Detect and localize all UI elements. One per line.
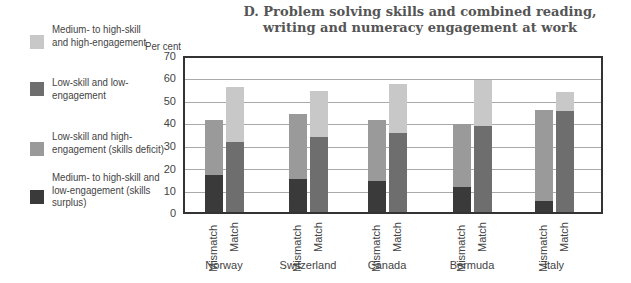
bar-segment xyxy=(556,111,574,212)
legend-swatch xyxy=(30,190,44,204)
bar-switzerland-match xyxy=(310,91,328,212)
legend-label: Low-skill and low-engagement xyxy=(52,76,162,101)
bar-switzerland-mismatch xyxy=(289,114,307,212)
chart-title: D. Problem solving skills and combined r… xyxy=(220,4,620,36)
chart-title-line1: D. Problem solving skills and combined r… xyxy=(220,4,620,20)
x-group-label-italy: Italy xyxy=(514,259,594,271)
y-tick: 60 xyxy=(150,72,176,84)
bar-segment xyxy=(453,187,471,212)
gridline xyxy=(185,79,601,80)
bar-italy-mismatch xyxy=(535,110,553,212)
bar-bermuda-match xyxy=(474,80,492,212)
bar-norway-mismatch xyxy=(205,120,223,212)
y-tick: 10 xyxy=(150,185,176,197)
bar-bermuda-mismatch xyxy=(453,124,471,212)
bar-segment xyxy=(389,84,407,132)
bar-canada-match xyxy=(389,84,407,212)
bar-segment xyxy=(310,137,328,212)
plot-area xyxy=(183,56,603,214)
bar-segment xyxy=(453,124,471,187)
x-label-match: Match xyxy=(558,222,570,252)
x-group-label-norway: Norway xyxy=(184,259,264,271)
bar-segment xyxy=(368,120,386,182)
x-group-label-switzerland: Switzerland xyxy=(268,259,348,271)
legend-label: Medium- to high-skill and high-engagemen… xyxy=(52,23,158,48)
bar-norway-match xyxy=(226,87,244,212)
x-label-match: Match xyxy=(391,222,403,252)
bar-segment xyxy=(535,110,553,201)
y-tick: 50 xyxy=(150,95,176,107)
chart-title-line2: writing and numeracy engagement at work xyxy=(220,20,620,36)
bar-segment xyxy=(368,181,386,212)
x-label-match: Match xyxy=(312,222,324,252)
legend-swatch xyxy=(30,35,44,49)
bar-segment xyxy=(389,133,407,212)
legend-swatch xyxy=(30,82,44,96)
bar-segment xyxy=(289,114,307,179)
x-group-label-bermuda: Bermuda xyxy=(432,259,512,271)
bar-canada-mismatch xyxy=(368,120,386,212)
y-tick: 30 xyxy=(150,140,176,152)
legend-swatch xyxy=(30,142,44,156)
bar-segment xyxy=(474,80,492,126)
bar-italy-match xyxy=(556,92,574,212)
bar-segment xyxy=(474,126,492,212)
bar-segment xyxy=(205,175,223,212)
bar-segment xyxy=(205,120,223,175)
bar-segment xyxy=(226,142,244,212)
x-label-match: Match xyxy=(228,222,240,252)
bar-segment xyxy=(289,179,307,212)
y-tick: 40 xyxy=(150,117,176,129)
y-tick: 0 xyxy=(150,207,176,219)
bar-segment xyxy=(556,92,574,111)
x-group-label-canada: Canada xyxy=(347,259,427,271)
y-tick: 70 xyxy=(150,50,176,62)
bar-segment xyxy=(310,91,328,137)
bar-segment xyxy=(535,201,553,212)
y-tick: 20 xyxy=(150,163,176,175)
x-label-match: Match xyxy=(476,222,488,252)
bar-segment xyxy=(226,87,244,142)
